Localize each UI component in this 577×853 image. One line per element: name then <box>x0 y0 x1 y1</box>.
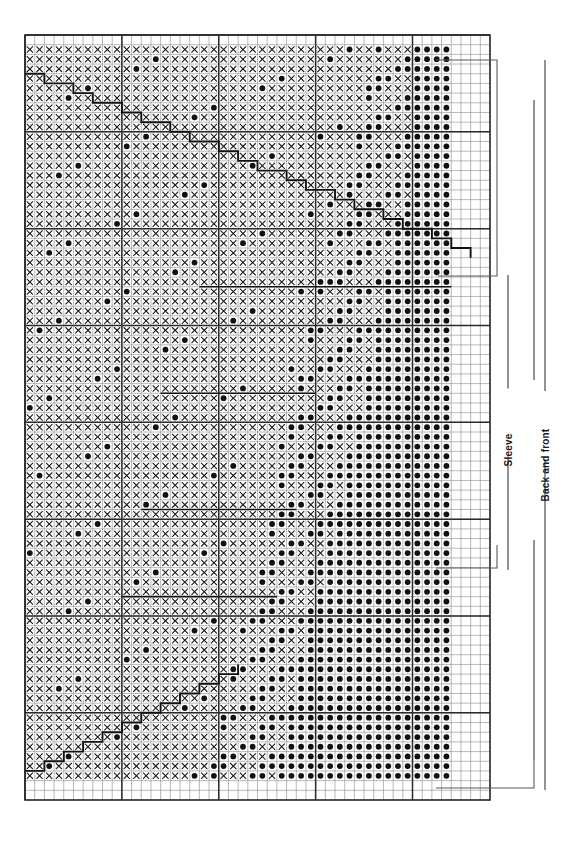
chart-canvas: Sleeve Back and front <box>0 0 577 853</box>
sleeve-label: Sleeve <box>503 433 514 466</box>
back-and-front-label: Back and front <box>540 428 551 501</box>
stitch-chart-diagram: Sleeve Back and front <box>0 0 577 853</box>
